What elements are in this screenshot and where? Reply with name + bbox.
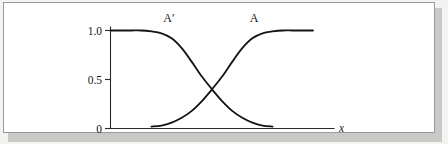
figure-root: 1.0 0.5 0 x A′ A — [0, 0, 448, 144]
curve-label-a-complement: A′ — [163, 11, 175, 25]
y-tick-label-1: 1.0 — [88, 25, 103, 37]
y-tick-label-0point5: 0.5 — [88, 74, 103, 86]
curve-a-complement — [111, 30, 273, 126]
y-tick-label-0: 0 — [96, 123, 102, 135]
curve-a — [151, 30, 313, 126]
fuzzy-membership-chart: 1.0 0.5 0 x A′ A — [0, 0, 448, 144]
curve-label-a: A — [250, 11, 259, 25]
x-axis-label: x — [338, 122, 345, 134]
